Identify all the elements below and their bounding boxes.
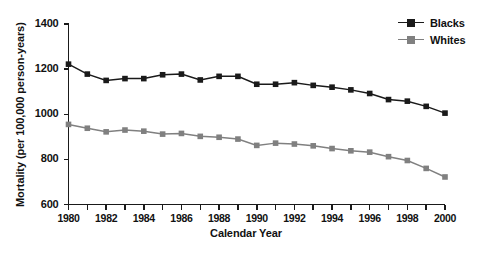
data-point-marker <box>85 71 91 77</box>
data-point-marker <box>66 122 72 128</box>
data-point-marker <box>386 154 392 160</box>
data-point-marker <box>103 78 109 84</box>
data-point-marker <box>66 61 72 67</box>
data-point-marker <box>310 83 316 89</box>
legend-item-blacks: Blacks <box>398 14 465 31</box>
data-point-marker <box>179 71 185 77</box>
data-point-marker <box>423 104 429 110</box>
data-point-marker <box>329 84 335 90</box>
data-point-marker <box>235 74 241 80</box>
data-point-marker <box>292 141 298 147</box>
data-point-marker <box>122 76 128 82</box>
chart-legend: Blacks Whites <box>398 14 465 48</box>
series-line <box>69 64 446 113</box>
data-point-marker <box>141 128 147 134</box>
legend-label-blacks: Blacks <box>430 17 465 29</box>
data-point-marker <box>160 131 166 137</box>
data-point-marker <box>216 134 222 140</box>
mortality-line-chart: Mortality (per 100,000 person-years) 600… <box>0 0 492 254</box>
data-point-marker <box>103 129 109 135</box>
data-point-marker <box>197 134 203 140</box>
data-point-marker <box>442 110 448 116</box>
data-point-marker <box>254 143 260 149</box>
data-point-marker <box>85 125 91 131</box>
legend-label-whites: Whites <box>430 34 465 46</box>
data-point-marker <box>141 76 147 82</box>
data-point-marker <box>442 174 448 180</box>
data-point-marker <box>160 72 166 78</box>
x-axis-title: Calendar Year <box>0 227 492 239</box>
legend-marker-blacks-icon <box>398 17 424 29</box>
data-point-marker <box>235 136 241 142</box>
legend-marker-whites-icon <box>398 34 424 46</box>
data-point-marker <box>273 81 279 87</box>
series-blacks <box>66 61 448 116</box>
data-point-marker <box>310 143 316 149</box>
data-point-marker <box>405 98 411 104</box>
data-point-marker <box>197 77 203 83</box>
series-whites <box>66 122 448 180</box>
data-point-marker <box>405 158 411 164</box>
data-point-marker <box>329 146 335 152</box>
data-point-marker <box>386 97 392 103</box>
data-point-marker <box>348 148 354 154</box>
data-point-marker <box>367 91 373 97</box>
legend-item-whites: Whites <box>398 31 465 48</box>
data-point-marker <box>292 80 298 86</box>
data-point-marker <box>348 87 354 93</box>
data-point-marker <box>273 140 279 146</box>
data-point-marker <box>367 149 373 155</box>
data-point-marker <box>216 74 222 80</box>
data-point-marker <box>254 81 260 87</box>
data-point-marker <box>122 127 128 133</box>
data-point-marker <box>423 166 429 172</box>
data-point-marker <box>179 131 185 137</box>
